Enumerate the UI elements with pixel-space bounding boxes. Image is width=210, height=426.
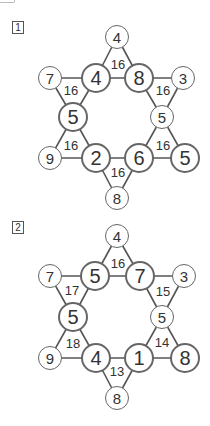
puzzle-1-triangle-sum: 16 — [64, 83, 78, 98]
puzzle-2-outer-node-bottom: 8 — [105, 386, 129, 410]
puzzle-2-inner-node-top-left: 5 — [80, 261, 110, 291]
puzzle-1-outer-node-upper-right: 3 — [171, 66, 195, 90]
puzzle-1-inner-node-top-right: 8 — [124, 63, 154, 93]
puzzle-2-outer-node-upper-left: 7 — [38, 264, 62, 288]
puzzle-1-inner-node-left: 5 — [58, 102, 88, 132]
puzzle-2-triangle-sum: 13 — [110, 364, 124, 379]
puzzle-1-inner-node-bottom-left: 2 — [81, 143, 111, 173]
puzzle-2-triangle-sum: 17 — [65, 283, 79, 298]
puzzle-1-outer-node-top: 4 — [105, 25, 129, 49]
puzzle-1-triangle-sum: 16 — [64, 138, 78, 153]
puzzle-1-inner-node-top-left: 4 — [81, 63, 111, 93]
puzzle-1-outer-node-lower-right: 5 — [170, 143, 200, 173]
puzzle-2-triangle-sum: 18 — [66, 336, 80, 351]
puzzle-2-outer-node-lower-left: 9 — [38, 346, 62, 370]
puzzle-2-outer-node-top: 4 — [105, 224, 129, 248]
puzzle-2-triangle-sum: 16 — [111, 256, 125, 271]
puzzle-2-inner-node-right: 5 — [150, 305, 174, 329]
puzzle-1-triangle-sum: 16 — [111, 57, 125, 72]
puzzle-1-outer-node-upper-left: 7 — [38, 66, 62, 90]
puzzle-2-inner-node-top-right: 7 — [125, 261, 155, 291]
puzzle-2-triangle-sum: 14 — [155, 335, 169, 350]
puzzle-2-outer-node-lower-right: 8 — [170, 343, 200, 373]
puzzle-1-triangle-sum: 16 — [156, 83, 170, 98]
puzzle-2-inner-node-left: 5 — [58, 302, 88, 332]
puzzle-2-triangle-sum: 15 — [156, 284, 170, 299]
puzzle-1-outer-node-bottom: 8 — [105, 186, 129, 210]
puzzle-1-outer-node-lower-left: 9 — [38, 146, 62, 170]
puzzle-1-inner-node-right: 5 — [150, 105, 174, 129]
puzzle-2-outer-node-upper-right: 3 — [172, 264, 196, 288]
puzzle-1-triangle-sum: 16 — [156, 138, 170, 153]
puzzle-2-inner-node-bottom-left: 4 — [81, 343, 111, 373]
puzzle-1-inner-node-bottom-right: 6 — [124, 143, 154, 173]
puzzle-2-inner-node-bottom-right: 1 — [124, 343, 154, 373]
puzzle-1-triangle-sum: 16 — [111, 165, 125, 180]
